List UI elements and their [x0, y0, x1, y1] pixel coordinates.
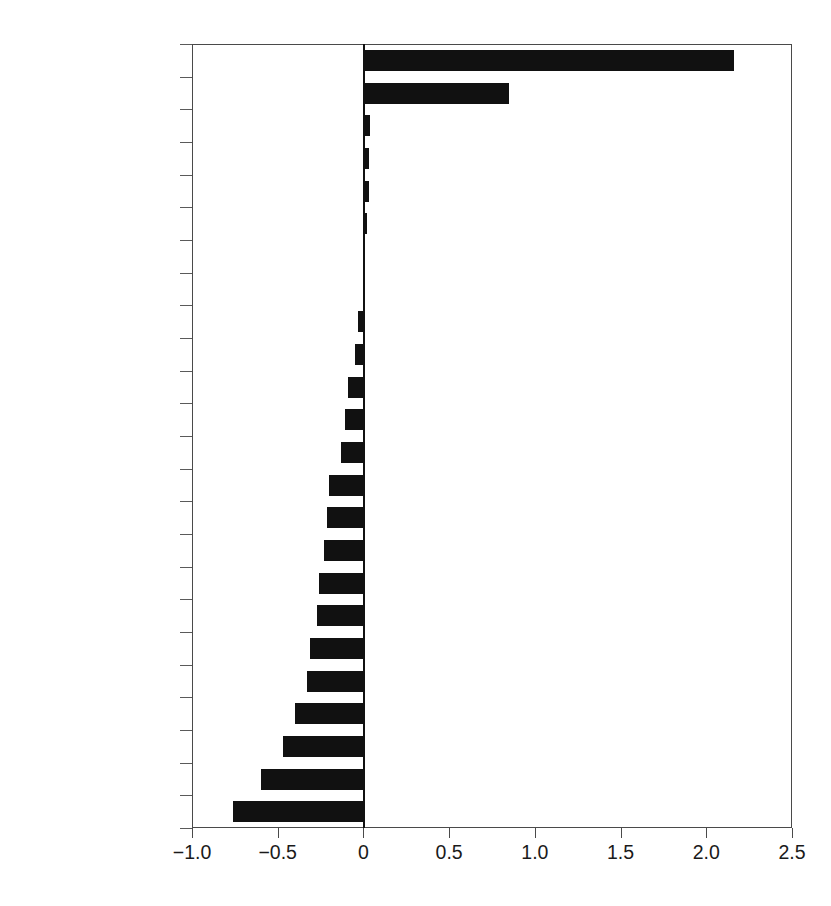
category-row: Taiwan [0, 697, 831, 730]
bar [233, 801, 363, 822]
category-row: Hong Kong [0, 240, 831, 273]
x-axis-tick-label: 0.5 [404, 841, 494, 864]
bar [317, 605, 363, 626]
bar [363, 50, 733, 71]
y-axis-tick [180, 632, 192, 633]
y-axis-tick [180, 109, 192, 110]
x-axis-tick-label: −1.0 [147, 841, 237, 864]
y-axis-tick [180, 469, 192, 470]
category-row: Philippines [0, 665, 831, 698]
x-axis-tick-label: 1.0 [490, 841, 580, 864]
category-row: Thailand [0, 763, 831, 796]
y-axis-tick [180, 44, 192, 45]
bar [319, 573, 364, 594]
bar [283, 736, 364, 757]
zero-reference-line [363, 44, 365, 828]
x-axis-tick-label: −0.5 [233, 841, 323, 864]
category-row: Other ASEAN [0, 501, 831, 534]
y-axis-tick [180, 371, 192, 372]
bar [329, 475, 363, 496]
y-axis-tick [180, 77, 192, 78]
category-row: Singapore [0, 632, 831, 665]
category-row: Chile [0, 142, 831, 175]
bar-chart: ChinaUnited StatesBruneiChileNew Zealand… [0, 0, 831, 906]
category-row: Malaysia [0, 730, 831, 763]
category-row: Japan [0, 371, 831, 404]
bar [345, 409, 364, 430]
category-row: India [0, 436, 831, 469]
category-row: Indonesia [0, 469, 831, 502]
bar [363, 83, 509, 104]
bar [348, 377, 363, 398]
category-row: Vietnam [0, 795, 831, 828]
x-axis-tick-label: 0 [318, 841, 408, 864]
y-axis-tick [180, 240, 192, 241]
category-row: Russia [0, 305, 831, 338]
bar [307, 671, 364, 692]
y-axis-tick [180, 305, 192, 306]
y-axis-tick [180, 730, 192, 731]
bar [261, 769, 364, 790]
bar [310, 638, 363, 659]
x-axis-tick [535, 828, 536, 838]
category-row: European Union [0, 273, 831, 306]
category-row: Korea [0, 599, 831, 632]
bar [327, 507, 363, 528]
y-axis-tick [180, 567, 192, 568]
x-axis-tick-label: 1.5 [576, 841, 666, 864]
y-axis-tick [180, 207, 192, 208]
x-axis-tick [192, 828, 193, 838]
y-axis-tick [180, 828, 192, 829]
x-axis-tick [621, 828, 622, 838]
x-axis-tick-label: 2.5 [747, 841, 831, 864]
y-axis-tick [180, 142, 192, 143]
category-row: Rest of world [0, 338, 831, 371]
x-axis-tick-label: 2.0 [661, 841, 751, 864]
y-axis-tick [180, 697, 192, 698]
category-row: Australia [0, 207, 831, 240]
x-axis-tick [792, 828, 793, 838]
bar [341, 442, 363, 463]
bar [324, 540, 363, 561]
y-axis-tick [180, 338, 192, 339]
y-axis-tick [180, 273, 192, 274]
y-axis-tick [180, 501, 192, 502]
y-axis-tick [180, 795, 192, 796]
y-axis-tick [180, 436, 192, 437]
y-axis-tick [180, 599, 192, 600]
y-axis-tick [180, 534, 192, 535]
y-axis-tick [180, 175, 192, 176]
category-row: Peru [0, 403, 831, 436]
y-axis-tick [180, 403, 192, 404]
x-axis-tick [363, 828, 364, 838]
category-row: Canada [0, 534, 831, 567]
category-row: Brunei [0, 109, 831, 142]
category-row: New Zealand [0, 175, 831, 208]
y-axis-tick [180, 665, 192, 666]
x-axis-tick [706, 828, 707, 838]
y-axis-tick [180, 763, 192, 764]
category-row: Mexico [0, 567, 831, 600]
bar [355, 344, 364, 365]
x-axis-tick [449, 828, 450, 838]
bar [295, 703, 364, 724]
x-axis-tick [278, 828, 279, 838]
